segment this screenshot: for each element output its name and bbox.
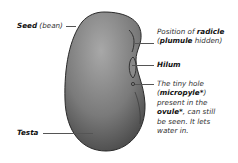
leader-line-hilum — [132, 65, 154, 66]
leader-line-micropyle — [135, 84, 154, 85]
seed-body — [65, 12, 145, 151]
hilum-outline — [129, 57, 136, 78]
leader-line-seed — [66, 26, 76, 27]
label-testa: Testa — [17, 128, 38, 137]
label-seed: Seed (bean) — [17, 21, 63, 30]
label-micropyle: The tiny hole (micropyle*) present in th… — [157, 79, 215, 135]
label-hilum: Hilum — [157, 60, 181, 69]
leader-line-radicle — [135, 43, 154, 44]
label-radicle: Position of radicle (plumule hidden) — [157, 27, 224, 46]
leader-line-testa — [43, 133, 93, 134]
